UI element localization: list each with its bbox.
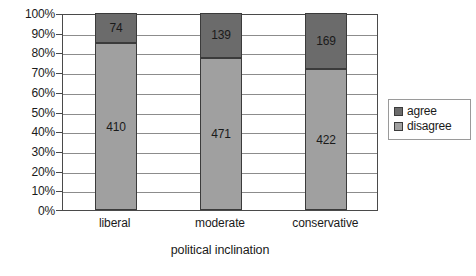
bar-segment-disagree[interactable]: 422: [305, 69, 347, 210]
y-tick-label: 0%: [0, 205, 55, 217]
bar-value-label: 169: [316, 35, 336, 47]
legend-swatch-agree-icon: [394, 107, 403, 116]
y-axis-labels: 100%90%80%70%60%50%40%30%20%10%0%: [0, 14, 55, 211]
bar-group[interactable]: 471139: [200, 15, 242, 210]
legend-swatch-disagree-icon: [394, 122, 403, 131]
x-tick-label: conservative: [292, 216, 358, 230]
bar-segment-agree[interactable]: 74: [95, 13, 137, 43]
y-tick-label: 60%: [0, 87, 55, 99]
bars-layer: 41074471139422169: [63, 15, 377, 210]
bar-segment-agree[interactable]: 169: [305, 13, 347, 69]
y-tick-label: 70%: [0, 67, 55, 79]
x-axis-title: political inclination: [62, 243, 378, 257]
x-tick-label: moderate: [195, 216, 245, 230]
bar-value-label: 139: [211, 29, 231, 41]
y-tick-label: 20%: [0, 166, 55, 178]
y-tick-label: 50%: [0, 107, 55, 119]
bar-segment-disagree[interactable]: 471: [200, 58, 242, 210]
legend-label-agree: agree: [407, 105, 437, 118]
chart-legend: agree disagree: [388, 99, 471, 140]
x-axis-labels: liberalmoderateconservative: [62, 216, 378, 234]
legend-item-disagree: disagree: [394, 119, 465, 134]
y-tick-label: 10%: [0, 185, 55, 197]
stacked-bar-chart: 100%90%80%70%60%50%40%30%20%10%0% 410744…: [0, 0, 476, 276]
bar-segment-disagree[interactable]: 410: [95, 43, 137, 210]
bar-value-label: 410: [106, 121, 126, 133]
y-tick-label: 80%: [0, 47, 55, 59]
bar-value-label: 74: [109, 22, 122, 34]
y-tick-label: 100%: [0, 8, 55, 20]
bar-group[interactable]: 422169: [305, 15, 347, 210]
y-tick-label: 30%: [0, 146, 55, 158]
y-tick-label: 90%: [0, 28, 55, 40]
legend-label-disagree: disagree: [407, 120, 451, 133]
bar-segment-agree[interactable]: 139: [200, 13, 242, 58]
y-tick-label: 40%: [0, 126, 55, 138]
bar-value-label: 471: [211, 128, 231, 140]
x-tick-label: liberal: [99, 216, 130, 230]
bar-value-label: 422: [316, 134, 336, 146]
legend-item-agree: agree: [394, 104, 465, 119]
plot-area: 41074471139422169: [62, 14, 378, 211]
bar-group[interactable]: 41074: [95, 15, 137, 210]
